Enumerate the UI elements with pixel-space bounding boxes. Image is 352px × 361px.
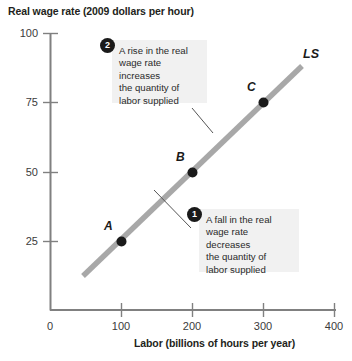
point-label-c: C [247,80,256,94]
data-point-c [259,98,269,108]
callout-rise-in-real-wage: A rise in the real wage rate increases t… [112,40,207,103]
curve-label-ls: LS [303,47,319,61]
y-tick-label-75: 75 [8,96,38,108]
callout-2-leader [192,108,213,133]
point-label-b: B [176,150,185,164]
data-point-a [117,237,127,247]
x-tick-label-100: 100 [101,320,141,332]
y-tick-label-50: 50 [8,166,38,178]
data-point-b [188,168,198,178]
supply-of-labor-chart: Real wage rate (2009 dollars per hour) 1… [0,0,352,361]
x-axis-title: Labor (billions of hours per year) [134,337,295,349]
x-tick-label-300: 300 [243,320,283,332]
callout-1-text: A fall in the real wage rate decreases t… [206,214,293,276]
callout-2-badge: 2 [100,38,115,53]
callout-fall-in-real-wage: A fall in the real wage rate decreases t… [199,209,299,272]
callout-1-badge: 1 [187,207,202,222]
point-label-a: A [104,219,113,233]
y-tick-label-25: 25 [8,235,38,247]
y-tick-label-100: 100 [8,27,38,39]
callout-2-text: A rise in the real wage rate increases t… [119,45,201,107]
x-tick-label-0: 0 [30,320,70,332]
callout-1-leader [154,190,191,228]
x-tick-label-400: 400 [314,320,352,332]
x-tick-label-200: 200 [172,320,212,332]
